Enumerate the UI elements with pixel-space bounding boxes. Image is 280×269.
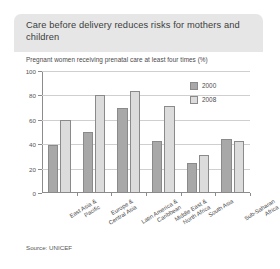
legend-item-2000: 2000 — [190, 80, 252, 91]
bar-sub-saharan-africa-2008 — [234, 141, 244, 193]
chart-figure: Care before delivery reduces risks for m… — [14, 14, 263, 257]
gridline — [42, 144, 250, 145]
gridline — [42, 169, 250, 170]
x-axis-tick — [181, 193, 182, 196]
y-axis-tick — [38, 120, 42, 121]
x-axis-label: Middle East &North Africa — [174, 198, 212, 228]
x-axis-tick — [250, 193, 251, 196]
bar-south-asia-2008 — [199, 155, 209, 193]
legend-item-2008: 2008 — [190, 94, 252, 105]
y-axis-tick-label: 60 — [29, 116, 36, 123]
bar-middle-east-north-africa-2008 — [164, 106, 174, 193]
x-axis-label: Sub-SaharanAfrica — [243, 198, 277, 228]
bar-europe-central-asia-2000 — [83, 132, 93, 193]
x-axis-tick — [215, 193, 216, 196]
y-axis-tick — [38, 169, 42, 170]
chart-legend: 2000 2008 — [190, 80, 252, 108]
y-axis-tick-label: 40 — [29, 141, 36, 148]
bar-middle-east-north-africa-2000 — [152, 141, 162, 193]
y-axis-tick-label: 0 — [33, 190, 36, 197]
chart-title-band: Care before delivery reduces risks for m… — [14, 14, 263, 52]
bar-group — [48, 71, 71, 193]
y-axis-tick-label: 80 — [29, 92, 36, 99]
bar-group — [152, 71, 175, 193]
gridline — [42, 120, 250, 121]
x-axis-tick — [146, 193, 147, 196]
bar-group — [83, 71, 106, 193]
bar-latin-america-caribbean-2000 — [117, 108, 127, 193]
bar-europe-central-asia-2008 — [95, 95, 105, 193]
bar-latin-america-caribbean-2008 — [130, 91, 140, 193]
legend-label-2008: 2008 — [202, 96, 216, 103]
gridline — [42, 71, 250, 72]
bar-group — [117, 71, 140, 193]
x-axis-tick — [111, 193, 112, 196]
x-axis-label: East Asia &Pacific — [69, 198, 102, 225]
y-axis-tick — [38, 95, 42, 96]
y-axis-tick — [38, 193, 42, 194]
y-axis-tick — [38, 144, 42, 145]
chart-card: Pregnant women receiving prenatal care a… — [14, 52, 263, 257]
legend-swatch-2008 — [190, 96, 198, 104]
chart-subtitle: Pregnant women receiving prenatal care a… — [26, 56, 208, 63]
bar-east-asia-pacific-2008 — [60, 120, 70, 193]
x-axis-tick — [77, 193, 78, 196]
legend-swatch-2000 — [190, 82, 198, 90]
bar-south-asia-2000 — [187, 163, 197, 194]
bar-east-asia-pacific-2000 — [48, 145, 58, 193]
chart-source: Source: UNICEF — [26, 244, 72, 251]
bar-sub-saharan-africa-2000 — [221, 139, 231, 193]
legend-label-2000: 2000 — [202, 82, 216, 89]
x-axis-label: Europe &Central Asia — [104, 198, 138, 226]
y-axis-tick-label: 20 — [29, 165, 36, 172]
chart-title: Care before delivery reduces risks for m… — [26, 19, 254, 44]
y-axis-tick — [38, 71, 42, 72]
y-axis-tick-label: 100 — [26, 68, 36, 75]
